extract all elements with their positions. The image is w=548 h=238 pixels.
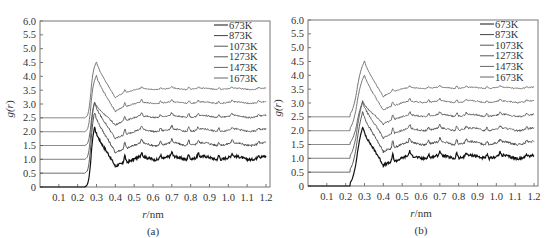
y-tick-label: 1.0 xyxy=(291,153,304,164)
x-axis-label: r/nm xyxy=(142,208,164,220)
x-axis-label: r/nm xyxy=(410,207,432,219)
legend-label: 1073K xyxy=(229,41,258,52)
chart-panel-b: 00.51.01.52.02.53.03.54.04.55.05.56.00.1… xyxy=(271,15,541,238)
series-line-1073K xyxy=(40,103,266,160)
y-tick-label: 5.5 xyxy=(23,29,36,40)
y-tick-label: 2.5 xyxy=(291,111,304,122)
x-tick-label: 0.1 xyxy=(52,192,65,203)
legend-label: 1673K xyxy=(495,72,524,83)
y-tick-label: 2.5 xyxy=(23,112,36,123)
y-axis-label: g(r) xyxy=(271,99,284,116)
y-tick-label: 2.0 xyxy=(23,126,36,137)
x-tick-label: 0.3 xyxy=(90,192,103,203)
series-line-1273K xyxy=(308,101,534,145)
x-tick-label: 1.2 xyxy=(527,191,540,202)
series-line-873K xyxy=(40,113,266,173)
y-tick-label: 6.0 xyxy=(291,15,304,26)
legend-label: 1273K xyxy=(495,50,524,61)
x-tick-label: 1.1 xyxy=(241,192,254,203)
chart-panel-a: 00.51.01.52.02.53.03.54.04.55.05.56.00.1… xyxy=(3,16,273,238)
series-line-673K xyxy=(308,128,534,186)
series-line-673K xyxy=(40,127,266,187)
y-tick-label: 3.0 xyxy=(23,99,36,110)
x-tick-label: 0.5 xyxy=(396,191,409,202)
series-line-1473K xyxy=(308,75,534,131)
x-tick-label: 1.0 xyxy=(222,192,235,203)
x-tick-label: 0.6 xyxy=(146,192,159,203)
y-tick-label: 3.0 xyxy=(291,98,304,109)
x-tick-label: 0.5 xyxy=(128,192,141,203)
legend: 673K873K1073K1273K1473K1673K xyxy=(480,19,524,83)
x-tick-label: 0.6 xyxy=(414,191,427,202)
x-tick-label: 0.7 xyxy=(433,191,446,202)
x-tick-label: 0.7 xyxy=(165,192,178,203)
legend-label: 1273K xyxy=(229,51,258,62)
y-tick-label: 5.5 xyxy=(291,28,304,39)
x-tick-label: 0.2 xyxy=(339,191,352,202)
y-tick-label: 6.0 xyxy=(23,16,36,27)
x-tick-label: 0.8 xyxy=(452,191,465,202)
y-tick-label: 0 xyxy=(299,181,304,192)
x-tick-label: 0.4 xyxy=(109,192,123,203)
series-line-1473K xyxy=(40,75,266,131)
x-tick-label: 1.0 xyxy=(490,191,503,202)
y-tick-label: 5.0 xyxy=(291,42,304,53)
legend-label: 673K xyxy=(495,19,519,30)
y-tick-label: 2.0 xyxy=(291,125,304,136)
y-tick-label: 1.5 xyxy=(291,139,304,150)
y-tick-label: 1.0 xyxy=(23,154,36,165)
y-tick-label: 4.5 xyxy=(23,57,36,68)
legend-label: 1073K xyxy=(495,40,524,51)
legend-label: 1673K xyxy=(229,73,258,84)
legend-label: 1473K xyxy=(229,62,258,73)
rdf-figure: 00.51.01.52.02.53.03.54.04.55.05.56.00.1… xyxy=(0,0,548,237)
panel-label: (b) xyxy=(415,224,428,237)
x-tick-label: 0.1 xyxy=(320,191,333,202)
x-tick-label: 0.9 xyxy=(203,192,216,203)
y-tick-label: 4.0 xyxy=(23,71,36,82)
y-tick-label: 1.5 xyxy=(23,140,36,151)
legend-label: 873K xyxy=(495,29,519,40)
x-tick-label: 1.2 xyxy=(259,192,272,203)
x-tick-label: 0.3 xyxy=(358,191,371,202)
y-axis-label: g(r) xyxy=(3,100,16,117)
y-tick-label: 4.0 xyxy=(291,70,304,81)
legend-label: 673K xyxy=(229,20,253,31)
y-tick-label: 4.5 xyxy=(291,56,304,67)
x-tick-label: 0.2 xyxy=(71,192,84,203)
y-tick-label: 5.0 xyxy=(23,43,36,54)
panel-label: (a) xyxy=(147,225,160,237)
y-tick-label: 3.5 xyxy=(23,85,36,96)
y-tick-label: 0.5 xyxy=(291,167,304,178)
series-line-1073K xyxy=(308,101,534,158)
x-tick-label: 0.4 xyxy=(377,191,391,202)
y-tick-label: 0.5 xyxy=(23,168,36,179)
x-tick-label: 1.1 xyxy=(509,191,522,202)
y-tick-label: 3.5 xyxy=(291,84,304,95)
x-tick-label: 0.9 xyxy=(471,191,484,202)
legend-label: 873K xyxy=(229,30,253,41)
x-tick-label: 0.8 xyxy=(184,192,197,203)
y-tick-label: 0 xyxy=(31,182,36,193)
series-line-873K xyxy=(308,112,534,173)
legend: 673K873K1073K1273K1473K1673K xyxy=(214,20,258,84)
legend-label: 1473K xyxy=(495,61,524,72)
